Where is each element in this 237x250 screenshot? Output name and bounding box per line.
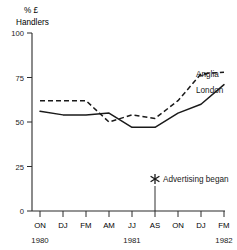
y-tick-label-50: 50 — [16, 118, 24, 127]
x-axis-ticks — [40, 211, 224, 217]
year-label-1982: 1982 — [215, 236, 232, 245]
x-tick-label-dj-1981: DJ — [196, 221, 206, 230]
series-label-anglia: Anglia — [196, 70, 219, 79]
x-axis-year-labels: 1980 1981 1982 — [31, 236, 232, 245]
series-label-london-group: London — [196, 86, 224, 95]
y-axis-title-line1: % £ — [24, 6, 39, 15]
x-tick-label-am-1981: AM — [103, 221, 115, 230]
y-tick-label-0: 0 — [20, 207, 24, 216]
y-tick-label-100: 100 — [11, 29, 24, 38]
x-tick-label-fm-1982: FM — [218, 221, 229, 230]
annotation-label-advertising-began: Advertising began — [163, 175, 229, 184]
year-label-1980: 1980 — [31, 236, 49, 245]
year-label-1981: 1981 — [123, 236, 140, 245]
series-label-anglia-group: Anglia — [196, 70, 219, 79]
line-chart: % £ Handlers 100 75 50 25 0 — [0, 0, 237, 250]
x-tick-label-as-1981: AS — [150, 221, 160, 230]
asterisk-marker — [151, 174, 160, 184]
x-tick-label-on-1980: ON — [34, 221, 46, 230]
y-axis-title-line2: Handlers — [16, 18, 49, 27]
y-axis-ticks: 100 75 50 25 0 — [11, 29, 32, 216]
x-tick-label-fm-1981: FM — [80, 221, 91, 230]
series-label-london: London — [196, 86, 224, 95]
x-axis-category-labels: ON DJ FM AM JJ AS ON DJ FM — [34, 221, 229, 230]
x-tick-label-dj-1980: DJ — [58, 221, 68, 230]
x-tick-label-on-1981: ON — [172, 221, 184, 230]
x-tick-label-jj-1981: JJ — [128, 221, 136, 230]
chart-container: % £ Handlers 100 75 50 25 0 — [0, 0, 237, 250]
annotation-advertising-began: Advertising began — [151, 174, 229, 211]
y-tick-label-25: 25 — [16, 163, 24, 172]
y-tick-label-75: 75 — [16, 74, 24, 83]
